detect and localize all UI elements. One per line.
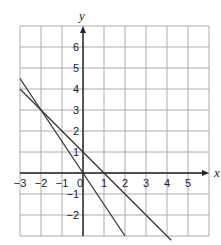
x-axis-label: x	[213, 165, 220, 180]
y-tick-label: 3	[73, 104, 79, 116]
line-graph: xy−3−2−1012345654321−1−2	[0, 0, 221, 245]
y-tick-label: 2	[73, 125, 79, 137]
x-tick-label: 1	[101, 177, 107, 189]
y-tick-label: −2	[66, 209, 79, 221]
y-tick-label: −1	[66, 188, 79, 200]
y-tick-label: 4	[73, 83, 79, 95]
x-axis-arrow-icon	[202, 170, 209, 176]
x-tick-label: 3	[143, 177, 149, 189]
x-tick-label: 2	[122, 177, 128, 189]
x-tick-label: 4	[164, 177, 170, 189]
x-tick-label: 5	[185, 177, 191, 189]
y-axis-arrow-icon	[80, 26, 86, 33]
x-tick-label: −3	[14, 177, 27, 189]
x-tick-label: −2	[35, 177, 48, 189]
y-axis-label: y	[77, 8, 85, 23]
y-tick-label: 5	[73, 62, 79, 74]
y-tick-label: 6	[73, 41, 79, 53]
